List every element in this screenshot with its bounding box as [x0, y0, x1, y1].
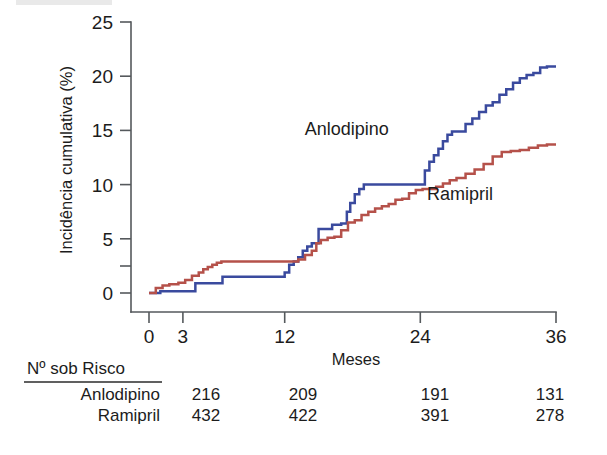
y-tick-label-15: 15 — [92, 120, 113, 141]
risk-table: Nº sob Risco Anlodipino 216 209 191 131 … — [24, 359, 564, 425]
y-tick-label-20: 20 — [92, 66, 113, 87]
y-axis: 25 20 15 10 5 0 Incidência cumulativa (%… — [57, 12, 131, 312]
risk-table-row-anlodipino: Anlodipino 216 209 191 131 — [81, 385, 565, 404]
x-axis: 0 3 12 24 36 Meses — [131, 312, 567, 368]
risk-value-ramipril-12: 422 — [289, 406, 317, 425]
risk-value-ramipril-24: 391 — [421, 406, 449, 425]
risk-value-anlodipino-0: 216 — [192, 385, 220, 404]
risk-value-ramipril-36: 278 — [536, 406, 564, 425]
risk-row-label-ramipril: Ramipril — [98, 406, 160, 425]
x-tick-label-3: 3 — [178, 326, 189, 347]
series-group — [149, 66, 556, 293]
risk-table-row-ramipril: Ramipril 432 422 391 278 — [98, 406, 565, 425]
series-line-ramipril — [149, 144, 556, 293]
series-annotation-anlodipino: Anlodipino — [305, 119, 389, 139]
risk-row-label-anlodipino: Anlodipino — [81, 385, 160, 404]
risk-value-ramipril-0: 432 — [192, 406, 220, 425]
risk-value-anlodipino-12: 209 — [289, 385, 317, 404]
x-tick-label-36: 36 — [545, 326, 566, 347]
chart-svg: 25 20 15 10 5 0 Incidência cumulativa (%… — [0, 0, 607, 455]
scan-artifact — [16, 0, 112, 5]
cumulative-incidence-figure: 25 20 15 10 5 0 Incidência cumulativa (%… — [0, 0, 607, 455]
x-tick-label-24: 24 — [410, 326, 432, 347]
x-axis-title: Meses — [332, 350, 381, 368]
y-tick-label-0: 0 — [102, 283, 113, 304]
y-tick-label-25: 25 — [92, 12, 113, 33]
y-axis-title: Incidência cumulativa (%) — [57, 66, 75, 254]
series-line-anlodipino — [149, 66, 556, 293]
y-tick-label-5: 5 — [102, 229, 113, 250]
risk-value-anlodipino-36: 131 — [536, 385, 564, 404]
risk-table-header: Nº sob Risco — [27, 359, 125, 378]
x-tick-label-0: 0 — [144, 326, 155, 347]
series-annotation-ramipril: Ramipril — [427, 184, 493, 204]
x-tick-label-12: 12 — [274, 326, 295, 347]
risk-value-anlodipino-24: 191 — [421, 385, 449, 404]
y-tick-label-10: 10 — [92, 175, 113, 196]
